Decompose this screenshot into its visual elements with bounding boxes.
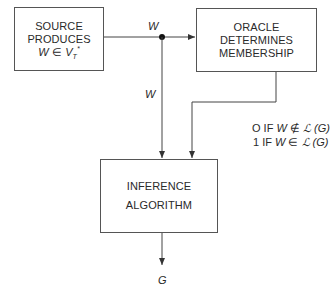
edge-label-w-left: W	[145, 88, 155, 100]
edge-label-w-top: W	[148, 20, 158, 32]
oracle-box: ORACLE DETERMINES MEMBERSHIP	[196, 8, 317, 72]
oracle-output-condition-0: O IF W ∉ ℒ (G)	[252, 121, 330, 136]
oracle-label-line-2: DETERMINES	[220, 34, 293, 47]
oracle-label-line-3: MEMBERSHIP	[219, 47, 294, 60]
inference-label-line-1: INFERENCE	[127, 177, 191, 196]
source-label-line-1: SOURCE	[35, 20, 83, 33]
source-label-line-2: PRODUCES	[27, 33, 90, 46]
source-box: SOURCE PRODUCES W ∈ VT*	[14, 7, 104, 71]
oracle-label-line-1: ORACLE	[234, 21, 280, 34]
inference-box: INFERENCE ALGORITHM	[100, 159, 218, 233]
output-label-g: G	[158, 274, 167, 286]
inference-label-line-2: ALGORITHM	[126, 196, 192, 215]
oracle-output-condition-1: 1 IF W ∈ ℒ (G)	[253, 135, 328, 150]
source-formula: W ∈ VT*	[38, 46, 80, 59]
